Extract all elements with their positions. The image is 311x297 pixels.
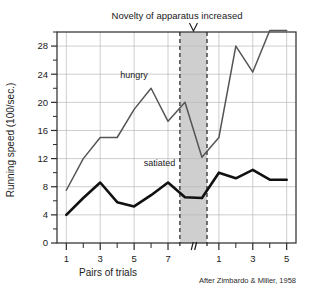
credit-note: After Zimbardo & Miller, 1958: [199, 276, 296, 285]
x-tick-label-segment2: 3: [250, 253, 255, 264]
chart-title: Novelty of apparatus increased: [112, 10, 243, 21]
x-tick-label-segment1: 7: [165, 253, 170, 264]
y-tick-label: 28: [37, 40, 48, 51]
y-tick-label: 12: [37, 153, 48, 164]
x-tick-label-segment2: 1: [216, 253, 221, 264]
y-axis-label: Running speed (100/sec.): [5, 83, 16, 198]
x-axis-label: Pairs of trials: [79, 267, 137, 278]
y-tick-label: 8: [43, 181, 48, 192]
y-tick-label: 20: [37, 97, 48, 108]
x-tick-label-segment1: 1: [64, 253, 69, 264]
shaded-novelty-region: [180, 32, 207, 243]
x-tick-label-segment1: 5: [131, 253, 136, 264]
y-tick-label: 16: [37, 125, 48, 136]
chart-svg: Novelty of apparatus increased 048121620…: [0, 0, 311, 297]
x-tick-label-segment2: 5: [284, 253, 289, 264]
y-tick-label: 0: [43, 237, 48, 248]
series-label-hungry: hungry: [120, 70, 148, 80]
x-tick-label-segment1: 3: [98, 253, 103, 264]
y-tick-label: 4: [43, 209, 48, 220]
y-tick-label: 24: [37, 69, 48, 80]
series-label-satiated: satiated: [144, 158, 176, 168]
chart-figure: Novelty of apparatus increased 048121620…: [0, 0, 311, 297]
